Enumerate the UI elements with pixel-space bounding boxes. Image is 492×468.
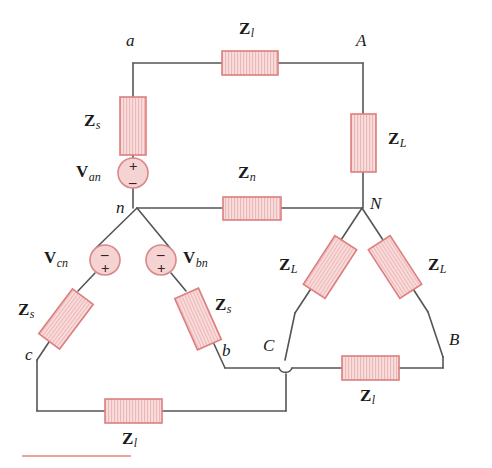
node-label-a: a xyxy=(126,32,135,49)
polarity-plus-vbn: + xyxy=(157,261,166,276)
impedance-label-zL-left-lower: ZL xyxy=(279,256,298,275)
z-subscript: n xyxy=(249,170,256,184)
wire-N-to-zL-left xyxy=(341,208,362,240)
polarity-minus-van: – xyxy=(129,175,137,190)
node-label-A: A xyxy=(356,32,366,49)
z-subscript: l xyxy=(371,393,375,407)
node-label-n: n xyxy=(116,199,125,216)
impedance-zL-left-lower xyxy=(303,236,356,299)
polarity-plus-vcn: + xyxy=(101,261,110,276)
wire-vcn-to-zs-left xyxy=(78,273,95,291)
impedance-zl-bottom xyxy=(105,399,162,423)
z-symbol: Z xyxy=(428,255,439,274)
circuit-diagram-figure: a A n N b B c C Zl Zs Zn ZL Zs Zs ZL ZL … xyxy=(0,0,492,468)
z-symbol: Z xyxy=(18,300,29,319)
v-subscript: cn xyxy=(56,256,68,270)
node-label-c: c xyxy=(25,346,33,363)
z-symbol: Z xyxy=(239,19,250,38)
impedance-label-zL-right-lower: ZL xyxy=(428,256,447,275)
source-label-vcn: Vcn xyxy=(44,249,68,269)
source-label-van: Van xyxy=(76,163,101,183)
node-label-B: B xyxy=(449,331,459,348)
impedance-zL-right-lower xyxy=(368,236,421,299)
wire-crossover-hop xyxy=(279,368,292,372)
v-symbol: V xyxy=(44,248,56,267)
node-label-N: N xyxy=(370,195,381,212)
v-symbol: V xyxy=(183,248,195,267)
circuit-schematic-svg xyxy=(0,0,492,468)
impedance-zl-top xyxy=(222,51,278,75)
impedance-label-zn: Zn xyxy=(238,164,256,183)
z-symbol: Z xyxy=(84,111,95,130)
wire-to-node-C xyxy=(285,313,295,360)
impedance-label-zl-bottom: Zl xyxy=(122,430,137,449)
impedance-label-zs-left: Zs xyxy=(18,301,35,320)
wire-to-node-B xyxy=(428,312,443,357)
impedance-zs-top xyxy=(120,97,146,155)
z-symbol: Z xyxy=(215,295,226,314)
v-subscript: bn xyxy=(195,256,208,270)
z-symbol: Z xyxy=(279,255,290,274)
node-label-b: b xyxy=(222,342,231,359)
z-symbol: Z xyxy=(388,129,399,148)
z-subscript: L xyxy=(439,262,446,276)
z-symbol: Z xyxy=(238,163,249,182)
impedance-label-zl-bottom-right: Zl xyxy=(360,387,375,406)
impedance-label-zs-top: Zs xyxy=(84,112,101,131)
node-label-C: C xyxy=(263,337,274,354)
z-subscript: s xyxy=(226,302,231,316)
v-subscript: an xyxy=(88,170,101,184)
source-label-vbn: Vbn xyxy=(183,249,208,269)
impedance-zl-bottom-right xyxy=(342,356,399,380)
z-subscript: s xyxy=(95,118,100,132)
impedance-zL-right-top xyxy=(351,114,376,172)
impedance-label-zL-right-top: ZL xyxy=(388,130,407,149)
z-symbol: Z xyxy=(122,429,133,448)
z-subscript: s xyxy=(29,307,34,321)
z-subscript: L xyxy=(290,262,297,276)
wire-n-to-vbn xyxy=(137,208,170,248)
z-symbol: Z xyxy=(360,386,371,405)
impedance-zs-left xyxy=(39,289,93,349)
impedance-zn xyxy=(223,197,281,220)
v-symbol: V xyxy=(76,162,88,181)
polarity-plus-van: + xyxy=(129,159,138,174)
wire-vbn-to-zs-right xyxy=(171,273,186,291)
z-subscript: l xyxy=(133,436,137,450)
z-subscript: L xyxy=(399,136,406,150)
impedance-label-zl-top: Zl xyxy=(239,20,254,39)
impedance-label-zs-right: Zs xyxy=(215,296,232,315)
z-subscript: l xyxy=(250,26,254,40)
